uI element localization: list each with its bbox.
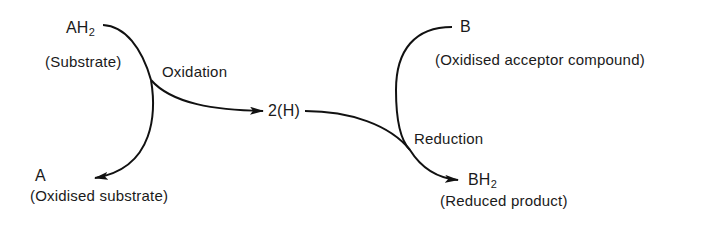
reduced-product-formula-text: BH xyxy=(468,171,491,188)
reduction-label: Reduction xyxy=(414,130,483,148)
acceptor-description: (Oxidised acceptor compound) xyxy=(435,51,645,69)
acceptor-formula: B xyxy=(460,18,471,36)
reduced-product-subscript: 2 xyxy=(491,178,497,190)
hydrogen-formula: 2(H) xyxy=(268,102,300,120)
reduced-product-formula: BH2 xyxy=(468,171,497,189)
substrate-subscript: 2 xyxy=(89,26,95,38)
hydrogen-arrow xyxy=(151,80,263,111)
reduced-product-description: (Reduced product) xyxy=(440,192,568,210)
oxidised-substrate-formula: A xyxy=(35,167,46,185)
substrate-description: (Substrate) xyxy=(45,53,121,71)
substrate-formula-text: AH xyxy=(66,19,89,36)
oxidation-label: Oxidation xyxy=(162,63,227,81)
oxidised-substrate-description: (Oxidised substrate) xyxy=(30,187,168,205)
substrate-formula: AH2 xyxy=(66,19,95,37)
oxidised-substrate-arrow xyxy=(95,80,153,178)
